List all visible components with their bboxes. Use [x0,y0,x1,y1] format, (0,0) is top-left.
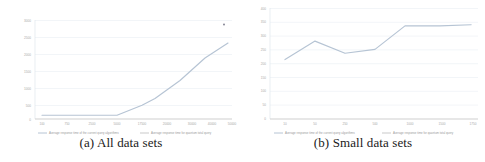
chart-a-x-ticklabels: 100 750 2500 5000 17500 20000 30000 4000… [39,122,236,126]
chart-a-xtick-5: 20000 [163,122,172,126]
chart-b-svg: 400 350 300 250 200 150 100 50 0 10 50 2… [242,0,484,137]
chart-b-ytick-2: 300 [261,34,266,38]
caption-a: (a) All data sets [80,136,163,150]
chart-b-ytick-6: 100 [261,89,266,93]
chart-a-xtick-2: 2500 [89,122,96,126]
chart-a-svg: 3000 2500 2000 1500 1000 500 0 100 750 2… [0,0,242,137]
chart-b-xtick-6: 1750 [470,122,477,126]
chart-a-ytick-4: 1000 [24,87,31,91]
chart-b-xtick-4: 1000 [407,122,414,126]
chart-b-xtick-3: 500 [372,122,377,126]
chart-b-y-ticklabels: 400 350 300 250 200 150 100 50 0 [261,7,266,122]
chart-b-xtick-0: 10 [283,122,287,126]
chart-a-ytick-6: 0 [29,118,31,122]
chart-a-legend-label-1: Average response time of the current que… [49,131,119,135]
chart-a-ytick-3: 1500 [24,70,31,74]
chart-a-ytick-1: 2500 [24,36,31,40]
chart-b-container: 400 350 300 250 200 150 100 50 0 10 50 2… [242,0,484,137]
chart-b-ytick-5: 150 [261,76,266,80]
chart-a-xtick-0: 100 [39,122,44,126]
chart-b-ytick-0: 400 [261,7,266,11]
chart-a-xtick-8: 50000 [228,122,237,126]
subfigure-a: 3000 2500 2000 1500 1000 500 0 100 750 2… [0,0,242,162]
chart-a-ytick-0: 3000 [24,19,31,23]
caption-b: (b) Small data sets [314,136,412,150]
chart-b-xtick-5: 1500 [439,122,446,126]
chart-a-xtick-6: 30000 [188,122,197,126]
figure-row: 3000 2500 2000 1500 1000 500 0 100 750 2… [0,0,485,162]
chart-b-xtick-1: 50 [313,122,317,126]
chart-a-container: 3000 2500 2000 1500 1000 500 0 100 750 2… [0,0,242,137]
chart-b-background [242,0,484,137]
chart-a-xtick-7: 40000 [208,122,217,126]
chart-a-annotation-marker [223,24,225,26]
chart-a-xtick-1: 750 [64,122,69,126]
subfigure-b: 400 350 300 250 200 150 100 50 0 10 50 2… [242,0,484,162]
chart-b-legend-label-1: Average response time of the current que… [285,131,355,135]
chart-b-xtick-2: 250 [342,122,347,126]
chart-b-ytick-8: 0 [264,117,266,121]
chart-b-ytick-7: 50 [263,103,267,107]
chart-b-ytick-1: 350 [261,20,266,24]
chart-b-legend-label-2: Average response time for quantum total … [393,131,454,135]
chart-a-ytick-2: 2000 [24,53,31,57]
chart-b-ytick-4: 200 [261,62,266,66]
chart-b-ytick-3: 250 [261,48,266,52]
chart-a-ytick-5: 500 [26,104,31,108]
chart-a-xtick-3: 5000 [114,122,121,126]
chart-a-legend-label-2: Average response time for quantum total … [151,131,212,135]
chart-a-xtick-4: 17500 [138,122,147,126]
